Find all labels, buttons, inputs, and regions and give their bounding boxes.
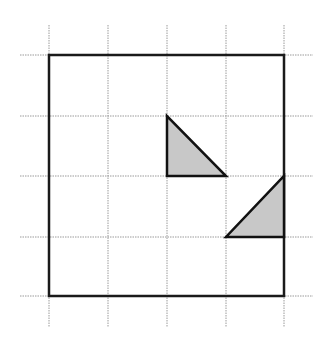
lower-triangle bbox=[226, 176, 284, 237]
upper-triangle bbox=[167, 116, 226, 176]
grid-diagram bbox=[0, 0, 331, 337]
